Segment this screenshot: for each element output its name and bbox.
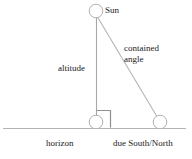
altitude-label: altitude — [58, 63, 85, 73]
contained-angle-label-line1: contained — [124, 43, 159, 53]
south-north-node-circle — [153, 115, 167, 129]
contained-angle-label-line2: angle — [124, 54, 144, 64]
due-south-north-label: due South/North — [113, 138, 173, 148]
sun-node-circle — [89, 4, 103, 18]
contained-angle-line — [98, 17, 160, 120]
observer-foot-node-circle — [89, 115, 103, 129]
horizon-label: horizon — [46, 138, 74, 148]
contained-angle-label: containedangle — [124, 43, 159, 65]
diagram-graphics — [0, 0, 192, 159]
sun-label: Sun — [105, 5, 119, 15]
diagram-canvas: Sun altitude containedangle horizon due … — [0, 0, 192, 159]
